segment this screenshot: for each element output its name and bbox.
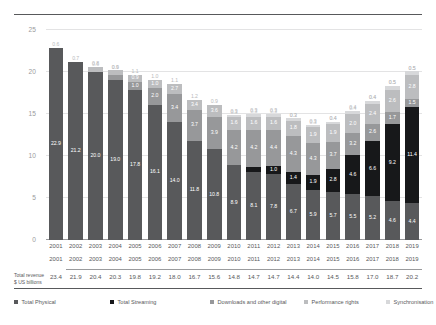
bar-2019[interactable]: 4.411.41.52.80.50.5 xyxy=(405,71,420,240)
totals-value-2018: 18.7 xyxy=(382,273,402,280)
segment-value-label: 4.2 xyxy=(246,146,261,151)
bar-segment-downloads: 4.4 xyxy=(266,130,281,166)
totals-value-2015: 14.5 xyxy=(323,273,343,280)
totals-value-2003: 20.4 xyxy=(85,273,105,280)
bar-segment-physical: 16.1 xyxy=(148,105,163,240)
bar-segment-sync: 0.3 xyxy=(286,118,301,121)
bar-2003[interactable]: 20.00.60.8 xyxy=(88,67,103,240)
totals-year-2001: 2001 xyxy=(46,256,66,262)
segment-value-label: 4.3 xyxy=(286,151,301,156)
bar-2015[interactable]: 5.72.83.71.90.40.4 xyxy=(326,122,341,240)
gridline xyxy=(46,29,422,30)
bar-segment-physical: 4.4 xyxy=(405,203,420,240)
totals-value-2016: 15.8 xyxy=(343,273,363,280)
bar-segment-performance: 1.9 xyxy=(326,124,341,142)
bar-2006[interactable]: 16.12.01.01.0 xyxy=(148,80,163,240)
totals-year-2003: 2003 xyxy=(85,256,105,262)
totals-year-2018: 2018 xyxy=(382,256,402,262)
bar-segment-performance: 1.6 xyxy=(227,117,242,130)
bar-2001[interactable]: 22.90.6 xyxy=(49,48,64,240)
totals-year-2008: 2008 xyxy=(184,256,204,262)
segment-value-label: 10.8 xyxy=(207,192,222,197)
legend-item-1[interactable]: Total Streaming xyxy=(110,299,156,305)
segment-value-label: 3.4 xyxy=(187,102,202,107)
bar-2010[interactable]: 8.94.21.60.30.3 xyxy=(227,115,242,240)
segment-value-label: 5.7 xyxy=(326,213,341,218)
bar-2004[interactable]: 19.00.60.60.9 xyxy=(108,70,123,240)
totals-year-2011: 2011 xyxy=(244,256,264,262)
bar-2008[interactable]: 11.83.73.41.2 xyxy=(187,100,202,240)
bar-segment-physical: 20.0 xyxy=(88,72,103,240)
bar-segment-sync: 0.5 xyxy=(385,86,400,90)
segment-value-label: 2.6 xyxy=(385,98,400,103)
y-axis-tick: 0 xyxy=(10,236,36,243)
bar-2017[interactable]: 5.26.62.62.40.40.4 xyxy=(365,101,380,240)
x-axis-label-2012: 2012 xyxy=(264,243,284,249)
totals-value-2011: 14.7 xyxy=(244,273,264,280)
segment-value-label: 20.0 xyxy=(88,153,103,158)
totals-value-2017: 17.0 xyxy=(363,273,383,280)
legend-item-2[interactable]: Downloads and other digital xyxy=(210,299,287,305)
bar-2009[interactable]: 10.83.93.60.9 xyxy=(207,105,222,240)
segment-value-label: 0.9 xyxy=(128,76,143,81)
x-axis-label-2019: 2019 xyxy=(402,243,422,249)
segment-value-label: 4.2 xyxy=(227,145,242,150)
totals-value-2006: 19.2 xyxy=(145,273,165,280)
bar-segment-physical: 17.8 xyxy=(128,90,143,240)
bar-2011[interactable]: 8.10.64.21.60.30.3 xyxy=(246,114,261,240)
legend-item-4[interactable]: Synchronisation xyxy=(386,299,433,305)
bar-top-value-label: 0.3 xyxy=(286,113,301,118)
totals-year-2005: 2005 xyxy=(125,256,145,262)
bar-top-value-label: 0.4 xyxy=(365,95,380,100)
bar-segment-streaming: 0.6 xyxy=(246,167,261,172)
bar-segment-streaming: 2.8 xyxy=(326,169,341,193)
bar-2005[interactable]: 17.81.00.91.1 xyxy=(128,75,143,240)
bar-segment-downloads: 1.7 xyxy=(385,112,400,125)
segment-value-label: 6.6 xyxy=(365,166,380,171)
bar-segment-performance: 0.6 xyxy=(88,67,103,72)
legend-item-3[interactable]: Performance rights xyxy=(304,299,359,305)
bar-segment-streaming: 1.4 xyxy=(286,172,301,184)
bar-segment-downloads: 3.7 xyxy=(187,110,202,141)
bar-segment-sync: 0.4 xyxy=(345,111,360,114)
totals-year-row: 2001200220032004200520062007200820092010… xyxy=(46,256,422,266)
totals-value-2014: 14.0 xyxy=(303,273,323,280)
totals-value-2001: 23.4 xyxy=(46,273,66,280)
x-axis-label-2018: 2018 xyxy=(382,243,402,249)
bar-segment-downloads: 3.7 xyxy=(326,142,341,169)
segment-value-label: 16.1 xyxy=(148,170,163,175)
segment-value-label: 4.4 xyxy=(405,219,420,224)
segment-value-label: 5.9 xyxy=(306,213,321,218)
bar-segment-downloads: 1.0 xyxy=(128,82,143,90)
totals-value-2008: 16.7 xyxy=(184,273,204,280)
bar-segment-sync: 0.5 xyxy=(405,71,420,75)
bar-segment-sync: 0.4 xyxy=(365,101,380,104)
totals-value-2002: 21.9 xyxy=(66,273,86,280)
x-axis-label-2003: 2003 xyxy=(85,243,105,249)
bar-segment-physical: 8.9 xyxy=(227,165,242,240)
totals-value-2009: 15.6 xyxy=(204,273,224,280)
x-axis-label-2007: 2007 xyxy=(165,243,185,249)
segment-value-label: 22.9 xyxy=(49,141,64,146)
bar-2013[interactable]: 6.71.44.31.80.30.3 xyxy=(286,118,301,240)
totals-year-2010: 2010 xyxy=(224,256,244,262)
segment-value-label: 3.9 xyxy=(207,130,222,135)
bar-2012[interactable]: 7.81.04.41.60.30.3 xyxy=(266,114,281,240)
bar-2002[interactable]: 21.20.7 xyxy=(68,62,83,240)
legend-item-0[interactable]: Total Physical xyxy=(14,299,56,305)
totals-value-2005: 19.8 xyxy=(125,273,145,280)
bar-segment-physical: 14.0 xyxy=(167,122,182,240)
totals-value-row: 23.421.920.420.319.819.218.016.715.614.8… xyxy=(46,273,422,283)
bar-2016[interactable]: 5.54.63.22.00.40.4 xyxy=(345,111,360,240)
bar-top-value-label: 0.5 xyxy=(405,66,420,71)
segment-value-label: 1.9 xyxy=(326,130,341,135)
bar-segment-downloads: 4.3 xyxy=(306,143,321,174)
bar-2018[interactable]: 4.69.21.72.60.50.5 xyxy=(385,86,400,241)
bar-segment-performance: 0.6 xyxy=(108,70,123,75)
x-axis-label-2017: 2017 xyxy=(363,243,383,249)
segment-value-label: 14.0 xyxy=(167,179,182,184)
segment-value-label: 6.7 xyxy=(286,209,301,214)
segment-value-label: 4.3 xyxy=(306,156,321,161)
bar-2014[interactable]: 5.91.94.31.90.30.3 xyxy=(306,125,321,240)
bar-2007[interactable]: 14.03.42.71.1 xyxy=(167,84,182,240)
